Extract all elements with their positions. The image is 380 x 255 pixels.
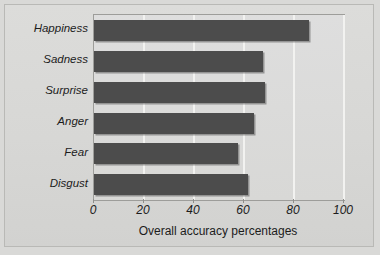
x-axis-title: Overall accuracy percentages bbox=[93, 224, 343, 238]
y-axis-label-anger: Anger bbox=[2, 115, 88, 127]
bar-anger bbox=[94, 113, 254, 134]
caption-remnant-text bbox=[6, 0, 236, 7]
bar-row bbox=[94, 138, 344, 169]
x-tick-label-20: 20 bbox=[136, 203, 149, 217]
bar-row bbox=[94, 169, 344, 200]
x-tick-label-60: 60 bbox=[236, 203, 249, 217]
y-axis-label-surprise: Surprise bbox=[2, 84, 88, 96]
plot-area bbox=[93, 14, 345, 201]
bar-disgust bbox=[94, 174, 248, 195]
bar-row bbox=[94, 77, 344, 108]
bar-surprise bbox=[94, 82, 265, 103]
bar-fear bbox=[94, 143, 238, 164]
x-tick-label-40: 40 bbox=[186, 203, 199, 217]
x-tick-label-100: 100 bbox=[333, 203, 353, 217]
x-tick-label-0: 0 bbox=[90, 203, 97, 217]
x-axis-ticks: 020406080100 bbox=[93, 201, 343, 219]
y-axis-label-fear: Fear bbox=[2, 146, 88, 158]
bar-row bbox=[94, 108, 344, 139]
y-axis-label-disgust: Disgust bbox=[2, 177, 88, 189]
bar-row bbox=[94, 46, 344, 77]
y-axis-category-labels: HappinessSadnessSurpriseAngerFearDisgust bbox=[0, 14, 88, 199]
bar-sadness bbox=[94, 51, 263, 72]
bar-happiness bbox=[94, 20, 309, 41]
x-tick-label-80: 80 bbox=[286, 203, 299, 217]
figure-container: HappinessSadnessSurpriseAngerFearDisgust… bbox=[0, 0, 380, 255]
y-axis-label-sadness: Sadness bbox=[2, 53, 88, 65]
y-axis-label-happiness: Happiness bbox=[2, 22, 88, 34]
bar-row bbox=[94, 15, 344, 46]
